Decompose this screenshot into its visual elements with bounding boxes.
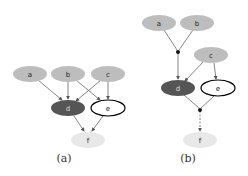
junction-1 <box>176 50 180 54</box>
svg-text:c: c <box>209 52 213 60</box>
edge-a-d <box>38 80 62 100</box>
node-c: c <box>91 66 125 82</box>
edge-b-e <box>76 80 100 100</box>
edge-d-f <box>74 116 84 131</box>
node-c: c <box>194 47 228 63</box>
edge-b-j1 <box>179 30 193 50</box>
node-f: f <box>71 132 105 148</box>
svg-text:d: d <box>176 85 180 93</box>
panel-b: a b c d e f (b) <box>142 15 235 165</box>
junction-2 <box>198 108 202 112</box>
edge-e-j2 <box>201 96 214 108</box>
svg-text:b: b <box>195 20 200 28</box>
edge-a-j1 <box>164 30 177 50</box>
edge-c-e <box>214 63 216 79</box>
edge-e-f <box>92 116 103 131</box>
edge-d-j2 <box>184 95 199 108</box>
node-b: b <box>180 15 214 31</box>
node-e: e <box>201 80 235 96</box>
node-f: f <box>183 132 217 148</box>
svg-text:c: c <box>106 71 110 79</box>
caption-b: (b) <box>180 152 196 165</box>
panel-a: a b c d e f (a) <box>13 66 125 165</box>
node-a: a <box>13 66 47 82</box>
svg-text:b: b <box>66 71 71 79</box>
node-e: e <box>91 100 125 116</box>
svg-text:a: a <box>28 71 32 79</box>
node-d: d <box>161 80 195 96</box>
edge-c-d <box>185 61 204 81</box>
diagram-canvas: a b c d e f (a) <box>0 0 248 176</box>
svg-text:a: a <box>157 20 161 28</box>
node-a: a <box>142 15 176 31</box>
svg-text:e: e <box>216 85 220 93</box>
node-d: d <box>51 100 85 116</box>
svg-text:e: e <box>106 105 110 113</box>
caption-a: (a) <box>56 152 71 165</box>
svg-text:d: d <box>66 105 70 113</box>
node-b: b <box>51 66 85 82</box>
